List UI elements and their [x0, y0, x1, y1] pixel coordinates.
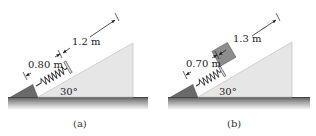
caption-a: (a): [73, 118, 87, 129]
spring-plate-a: [64, 61, 72, 73]
spring-anchor-wedge-b: [170, 84, 198, 97]
angle-label-a: 30°: [60, 86, 78, 97]
ground-a: [8, 97, 148, 110]
panel-b: 30° 0.70 m 1.3 m (b): [168, 13, 310, 129]
spring-length-label-a: 0.80 m: [28, 59, 63, 70]
incline-a: [38, 43, 133, 97]
caption-b: (b): [227, 118, 241, 129]
diagram-canvas: 30° 0.80 m 1.2 m (a): [0, 0, 316, 136]
incline-b: [198, 42, 292, 97]
distance-label-b: 1.3 m: [233, 33, 262, 44]
spring-anchor-wedge-a: [10, 84, 38, 97]
spring-length-label-b: 0.70 m: [186, 58, 221, 69]
angle-label-b: 30°: [219, 86, 237, 97]
distance-label-a: 1.2 m: [72, 36, 101, 47]
panel-a: 30° 0.80 m 1.2 m (a): [8, 13, 148, 129]
dimension-distance-a: [63, 13, 119, 53]
ground-b: [168, 97, 310, 110]
